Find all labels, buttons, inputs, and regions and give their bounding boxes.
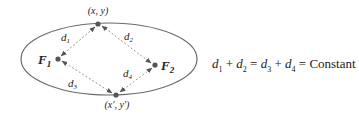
formula-plus2: + — [271, 56, 285, 71]
formula-constant: Constant — [309, 56, 355, 71]
formula-plus1: + — [223, 56, 237, 71]
focus-f1-dot — [55, 56, 60, 61]
focus-f2-label: F2 — [160, 58, 175, 75]
distance-sum-formula: d1 + d2 = d3 + d4 = Constant — [212, 56, 356, 74]
formula-eq1: = — [247, 56, 261, 71]
formula-eq2: = — [296, 56, 310, 71]
point-bottom-label: (x′, y′) — [105, 99, 131, 111]
point-top-dot — [95, 21, 100, 26]
focus-f2-dot — [152, 62, 157, 67]
distance-d4-label: d4 — [123, 67, 133, 81]
point-top-label: (x, y) — [88, 5, 109, 17]
focus-f1-label: F1 — [37, 52, 51, 69]
distance-d1-label: d1 — [61, 31, 70, 45]
point-bottom-dot — [113, 92, 118, 97]
distance-d2-label: d2 — [124, 30, 134, 44]
distance-d3-label: d3 — [68, 77, 78, 91]
